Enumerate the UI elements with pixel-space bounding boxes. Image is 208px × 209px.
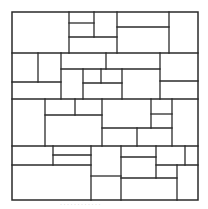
figure-caption: · · · · · · · · · · · ·	[60, 201, 200, 209]
outer-square	[12, 12, 198, 200]
tiling-lines	[12, 12, 198, 200]
rectangle-tiling-diagram	[0, 0, 208, 209]
